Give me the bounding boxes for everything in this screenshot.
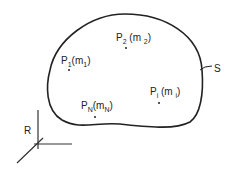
diagram-canvas	[0, 0, 235, 171]
particle-point-p1	[68, 69, 70, 71]
particle-point-pn	[94, 116, 96, 118]
reference-frame-axes	[17, 110, 72, 163]
particle-label-pi: Pi (m i)	[150, 87, 180, 97]
particle-point-pi	[158, 102, 160, 104]
particle-label-p2: P2 (m 2)	[116, 33, 151, 43]
frame-label-r: R	[24, 126, 31, 136]
particle-label-pn: PN(mN)	[81, 101, 113, 111]
body-label-s: S	[214, 64, 221, 74]
particle-point-p2	[125, 47, 127, 49]
body-outline	[48, 14, 203, 127]
particle-label-p1: P1(m1)	[61, 56, 91, 66]
